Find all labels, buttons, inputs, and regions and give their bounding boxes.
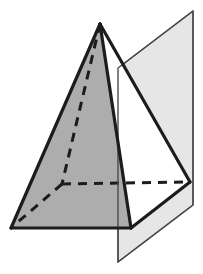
geometry-figure-container: Pyramid intersected by a plane [0, 0, 203, 274]
pyramid-plane-diagram: Pyramid intersected by a plane [0, 0, 203, 274]
